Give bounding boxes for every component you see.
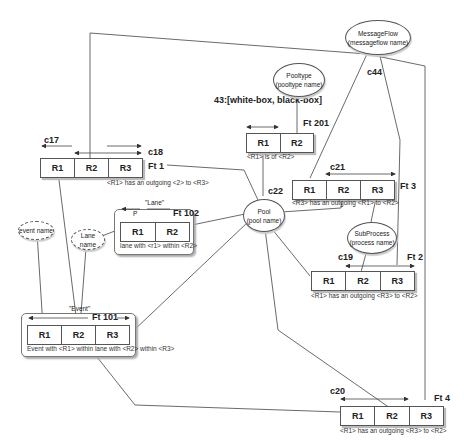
constraint-c44: c44 (367, 67, 382, 77)
fact-type-ft201-name: Ft 201 (303, 118, 329, 128)
role-r2[interactable]: R2 (375, 407, 409, 425)
role-r1[interactable]: R1 (293, 181, 327, 199)
role-r2[interactable]: R2 (281, 134, 314, 152)
fact-type-ft101-name: Ft 101 (92, 312, 118, 322)
fact-type-ft102-name: Ft 102 (173, 208, 199, 218)
connector-lines (0, 0, 464, 446)
entity-pool[interactable]: Pool (pool name) (243, 199, 285, 232)
role-r2[interactable]: R2 (346, 272, 380, 290)
fact-type-ft201[interactable]: R1 R2 (246, 133, 314, 153)
role-r1[interactable]: R1 (341, 407, 375, 425)
fact-type-ft102-label: "Lane" (145, 199, 164, 206)
fact-type-ft3-reading: <R3> has an outgoing <R1> to <R2> (292, 199, 399, 206)
role-r2[interactable]: R2 (156, 223, 190, 241)
value-type-event-name-label: event name (19, 226, 53, 235)
entity-subprocess-name: SubProcess (354, 229, 389, 238)
fact-type-ft3-name: Ft 3 (400, 181, 416, 191)
entity-subprocess-refmode: (process name) (349, 238, 394, 247)
fact-type-ft4[interactable]: R1 R2 R3 (340, 406, 444, 426)
fact-type-ft102[interactable]: R1 R2 (120, 222, 190, 242)
role-r1[interactable]: R1 (121, 223, 156, 241)
entity-messageflow-name: MessageFlow (358, 29, 398, 38)
entity-subprocess[interactable]: SubProcess (process name) (347, 222, 397, 254)
constraint-c20: c20 (330, 386, 345, 396)
fact-type-ft102-marker: P (133, 210, 137, 217)
fact-type-ft101-reading: Event with <R1> within lane with <R2> wi… (27, 345, 174, 352)
fact-type-ft4-reading: <R1> has an outgoing <R3> to <R2> (340, 427, 447, 434)
role-r3[interactable]: R3 (361, 181, 394, 199)
role-r1[interactable]: R1 (28, 326, 62, 344)
role-r3[interactable]: R3 (96, 326, 129, 344)
fact-type-ft3[interactable]: R1 R2 R3 (292, 180, 395, 200)
fact-type-ft101-label: "Event" (69, 305, 90, 312)
role-r3[interactable]: R3 (109, 159, 142, 177)
fact-type-ft4-name: Ft 4 (434, 393, 450, 403)
value-type-event-name[interactable]: event name (18, 221, 54, 240)
constraint-c22: c22 (268, 186, 283, 196)
role-r2[interactable]: R2 (327, 181, 361, 199)
role-r1[interactable]: R1 (312, 272, 346, 290)
fact-type-ft102-reading: lane with <r1> within <R2> (120, 242, 197, 249)
role-r3[interactable]: R3 (410, 407, 443, 425)
fact-type-ft101[interactable]: R1 R2 R3 (27, 325, 130, 345)
role-r2[interactable]: R2 (62, 326, 96, 344)
entity-pooltype-name: Pooltype (286, 71, 311, 80)
constraint-c18: c18 (148, 147, 163, 157)
role-r2[interactable]: R2 (75, 159, 109, 177)
entity-pool-name: Pool (257, 207, 270, 216)
entity-messageflow[interactable]: MessageFlow (messageflow name) (345, 20, 411, 55)
constraint-c17: c17 (44, 135, 59, 145)
entity-pooltype-refmode: (pooltype name) (276, 80, 323, 89)
entity-pool-refmode: (pool name) (247, 216, 282, 225)
entity-messageflow-refmode: (messageflow name) (348, 38, 408, 47)
entity-pooltype[interactable]: Pooltype (pooltype name) (273, 63, 325, 97)
role-r1[interactable]: R1 (41, 159, 75, 177)
role-r1[interactable]: R1 (247, 134, 281, 152)
fact-type-ft1-reading: <R1> has an outgoing <2> to <R3> (107, 179, 209, 186)
constraint-label: 43:[white-box, black-box] (214, 95, 322, 105)
fact-type-ft1-name: Ft 1 (148, 161, 164, 171)
fact-type-ft2[interactable]: R1 R2 R3 (311, 271, 415, 291)
constraint-c21: c21 (330, 162, 345, 172)
fact-type-ft2-reading: <R1> has an outgoing <R3> to <R2> (311, 292, 418, 299)
fact-type-ft1[interactable]: R1 R2 R3 (40, 158, 143, 178)
value-type-lane-name[interactable]: Lane name (71, 229, 105, 250)
constraint-c19: c19 (338, 252, 353, 262)
role-r3[interactable]: R3 (381, 272, 414, 290)
fact-type-ft201-reading: <R1> is of <R2> (247, 153, 294, 160)
value-type-lane-name-label: Lane name (72, 231, 104, 249)
fact-type-ft2-name: Ft 2 (407, 252, 423, 262)
